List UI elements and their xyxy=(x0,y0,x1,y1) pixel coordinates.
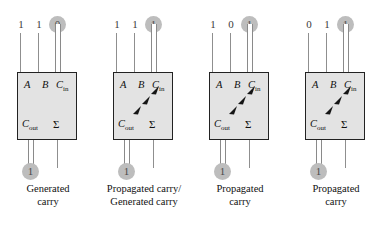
carry-out-node: 1 xyxy=(118,163,135,180)
adder-cell-4: 011ABCinCoutΣ1Propagatedcarry xyxy=(288,0,384,232)
page-margin-note xyxy=(380,14,387,24)
wire-input-a xyxy=(212,33,213,72)
full-adder-box: ABCinCoutΣ xyxy=(17,72,77,140)
wire-carry-in xyxy=(343,24,349,72)
full-adder-box: ABCinCoutΣ xyxy=(209,72,269,140)
wire-carry-in xyxy=(151,24,157,72)
wire-input-a xyxy=(308,33,309,72)
wire-input-a xyxy=(20,33,21,72)
wire-input-b xyxy=(326,33,327,72)
wire-input-b xyxy=(38,33,39,72)
input-bit-b-label: 1 xyxy=(128,18,142,30)
port-label-a: A xyxy=(312,79,318,90)
port-label-sum: Σ xyxy=(149,118,155,130)
port-label-cin: Cin xyxy=(56,79,68,93)
carry-out-node: 1 xyxy=(310,163,327,180)
input-bit-a-label: 1 xyxy=(14,18,28,30)
port-label-a: A xyxy=(216,79,222,90)
input-bit-b-label: 1 xyxy=(320,18,334,30)
wire-carry-in xyxy=(247,24,253,72)
input-bit-b-label: 1 xyxy=(32,18,46,30)
wire-sum-out xyxy=(153,140,154,168)
port-label-b: B xyxy=(330,79,336,90)
port-label-cout: Cout xyxy=(22,118,38,132)
port-label-b: B xyxy=(42,79,48,90)
port-label-sum: Σ xyxy=(53,118,59,130)
cell-caption: Propagatedcarry xyxy=(274,182,387,208)
wire-carry-in xyxy=(55,24,61,72)
port-label-cout: Cout xyxy=(214,118,230,132)
port-label-b: B xyxy=(138,79,144,90)
full-adder-box: ABCinCoutΣ xyxy=(305,72,365,140)
port-label-cin: Cin xyxy=(152,79,164,93)
wire-sum-out xyxy=(345,140,346,168)
port-label-a: A xyxy=(120,79,126,90)
input-bit-a-label: 0 xyxy=(302,18,316,30)
port-label-cout: Cout xyxy=(310,118,326,132)
input-bit-b-label: 0 xyxy=(224,18,238,30)
full-adder-box: ABCinCoutΣ xyxy=(113,72,173,140)
port-label-cout: Cout xyxy=(118,118,134,132)
port-label-cin: Cin xyxy=(248,79,260,93)
port-label-b: B xyxy=(234,79,240,90)
wire-input-b xyxy=(134,33,135,72)
wire-input-a xyxy=(116,33,117,72)
port-label-a: A xyxy=(24,79,30,90)
input-bit-a-label: 1 xyxy=(110,18,124,30)
wire-sum-out xyxy=(249,140,250,168)
carry-out-node: 1 xyxy=(22,163,39,180)
wire-input-b xyxy=(230,33,231,72)
wire-sum-out xyxy=(57,140,58,168)
port-label-sum: Σ xyxy=(341,118,347,130)
port-label-sum: Σ xyxy=(245,118,251,130)
carry-out-node: 1 xyxy=(214,163,231,180)
ripple-carry-adder-figure: 110ABCinCoutΣ1Generatedcarry111ABCinCout… xyxy=(0,0,387,232)
port-label-cin: Cin xyxy=(344,79,356,93)
input-bit-a-label: 1 xyxy=(206,18,220,30)
